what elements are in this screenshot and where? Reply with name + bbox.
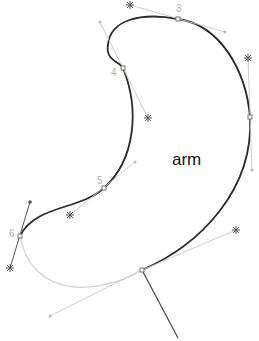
point-label-5: 5 <box>97 176 103 186</box>
star-handles[interactable] <box>6 1 252 272</box>
handle-line-bottom[interactable] <box>142 270 178 338</box>
point-label-4: 4 <box>111 68 117 78</box>
anchor-point-right <box>248 115 252 119</box>
handle-lines <box>50 5 252 316</box>
shape-label: arm <box>172 151 201 168</box>
bezier-canvas[interactable] <box>0 0 259 341</box>
point-label-6: 6 <box>9 229 15 239</box>
star-icon <box>232 226 240 234</box>
star-icon <box>66 211 74 219</box>
anchor-point-4 <box>121 66 125 70</box>
anchor-points[interactable] <box>18 17 252 272</box>
point-label-3: 3 <box>176 4 182 14</box>
handle-dot-point-6[interactable] <box>28 200 32 204</box>
star-icon <box>144 114 152 122</box>
handle-dots[interactable] <box>49 21 254 318</box>
anchor-point-bottom <box>140 268 144 272</box>
anchor-point-6 <box>18 234 22 238</box>
active-path[interactable] <box>20 17 250 270</box>
anchor-point-3 <box>176 17 180 21</box>
anchor-point-5 <box>102 186 106 190</box>
star-icon <box>244 54 252 62</box>
star-icon <box>126 1 134 9</box>
star-icon <box>6 264 14 272</box>
